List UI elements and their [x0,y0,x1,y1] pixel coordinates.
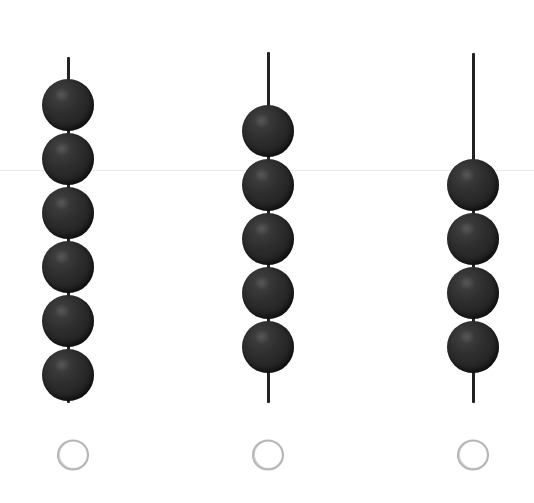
answer-circle-3[interactable] [454,436,492,474]
bead-c1-3[interactable] [42,187,94,239]
bead-c2-5[interactable] [242,321,294,373]
answer-circle-2[interactable] [249,436,287,474]
answer-value [54,436,92,474]
answer-value [249,436,287,474]
bead-c2-1[interactable] [242,105,294,157]
bead-c3-4[interactable] [447,321,499,373]
bead-c1-4[interactable] [42,241,94,293]
answer-circle-1[interactable] [54,436,92,474]
bead-c2-2[interactable] [242,159,294,211]
worksheet-canvas [0,0,534,503]
bead-c1-2[interactable] [42,133,94,185]
bead-c3-3[interactable] [447,267,499,319]
bead-c1-6[interactable] [42,349,94,401]
bead-c2-3[interactable] [242,213,294,265]
bead-c1-5[interactable] [42,295,94,347]
bead-c1-1[interactable] [42,79,94,131]
bead-c3-2[interactable] [447,213,499,265]
bead-c2-4[interactable] [242,267,294,319]
answer-value [454,436,492,474]
bead-c3-1[interactable] [447,159,499,211]
